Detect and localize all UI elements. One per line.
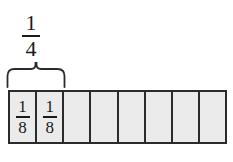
fraction-cell-3 <box>64 92 91 142</box>
fraction-numerator: 1 <box>22 12 40 34</box>
fraction-bar-row: 1 8 1 8 <box>8 90 227 144</box>
fraction-cell-5 <box>119 92 146 142</box>
fraction-denominator: 8 <box>43 119 57 136</box>
fraction-cell-4 <box>91 92 118 142</box>
fraction-cell-1: 1 8 <box>10 92 37 142</box>
fraction-numerator: 1 <box>16 98 30 115</box>
fraction-denominator: 8 <box>16 119 30 136</box>
fraction-cell-8 <box>200 92 225 142</box>
fraction-denominator: 4 <box>22 38 40 60</box>
fraction-cell-7 <box>173 92 200 142</box>
group-fraction-label: 1 4 <box>22 12 52 60</box>
fraction-cell-2: 1 8 <box>37 92 64 142</box>
fraction-numerator: 1 <box>43 98 57 115</box>
fraction-one-fourth: 1 4 <box>22 12 40 60</box>
fraction-bar-diagram: 1 4 1 8 1 8 <box>0 0 233 162</box>
fraction-one-eighth: 1 8 <box>43 98 57 136</box>
curly-brace-up-icon <box>6 62 66 88</box>
fraction-one-eighth: 1 8 <box>16 98 30 136</box>
fraction-cell-6 <box>146 92 173 142</box>
